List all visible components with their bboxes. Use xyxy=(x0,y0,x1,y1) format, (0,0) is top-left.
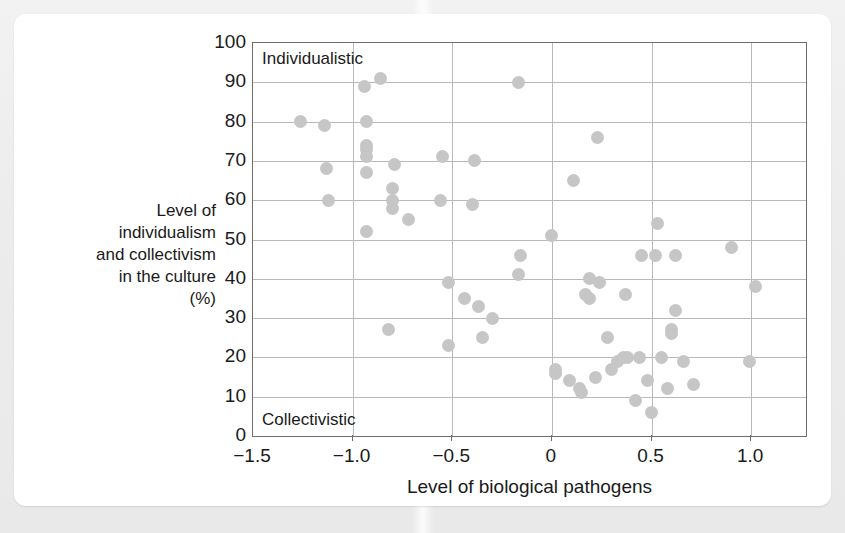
data-point xyxy=(591,131,604,144)
x-tick-label: 0 xyxy=(546,445,557,467)
y-tick-label: 0 xyxy=(200,424,246,446)
data-point xyxy=(743,355,756,368)
data-point xyxy=(687,378,700,391)
data-point xyxy=(374,72,387,85)
gridline-horizontal xyxy=(253,240,806,241)
data-point xyxy=(442,276,455,289)
data-point xyxy=(635,249,648,262)
y-tick-label: 80 xyxy=(200,110,246,132)
data-point xyxy=(567,174,580,187)
y-tick-label: 90 xyxy=(200,70,246,92)
gridline-vertical xyxy=(751,43,752,436)
data-point xyxy=(633,351,646,364)
data-point xyxy=(514,249,527,262)
data-point xyxy=(725,241,738,254)
y-tick-label: 20 xyxy=(200,345,246,367)
data-point xyxy=(512,76,525,89)
y-axis-label: Level of individualism and collectivism … xyxy=(96,200,216,310)
x-tick-mark xyxy=(651,435,652,441)
data-point xyxy=(619,288,632,301)
x-tick-label: 1.0 xyxy=(737,445,763,467)
y-tick-label: 10 xyxy=(200,385,246,407)
data-point xyxy=(486,312,499,325)
scatter-plot-figure: 0102030405060708090100 Level of individu… xyxy=(14,14,831,506)
data-point xyxy=(549,367,562,380)
data-point xyxy=(651,217,664,230)
data-point xyxy=(322,194,335,207)
x-axis-tick-labels: −1.5−1.0−0.500.51.0 xyxy=(252,441,807,471)
x-tick-mark xyxy=(750,435,751,441)
gridline-horizontal xyxy=(253,161,806,162)
data-point xyxy=(661,382,674,395)
scanned-page-background: 0102030405060708090100 Level of individu… xyxy=(0,0,845,533)
data-point xyxy=(655,351,668,364)
data-point xyxy=(358,80,371,93)
x-tick-label: −1.5 xyxy=(233,445,271,467)
data-point xyxy=(386,182,399,195)
data-point xyxy=(512,268,525,281)
gridline-horizontal xyxy=(253,122,806,123)
data-point xyxy=(583,292,596,305)
gridline-horizontal xyxy=(253,82,806,83)
x-tick-mark xyxy=(451,435,452,441)
data-point xyxy=(466,198,479,211)
data-point xyxy=(476,331,489,344)
data-point xyxy=(434,194,447,207)
data-point xyxy=(649,249,662,262)
plot-area: Individualistic Collectivistic xyxy=(252,42,807,437)
data-point xyxy=(472,300,485,313)
data-point xyxy=(458,292,471,305)
data-point xyxy=(318,119,331,132)
data-point xyxy=(749,280,762,293)
data-point xyxy=(382,323,395,336)
gridline-horizontal xyxy=(253,318,806,319)
gridline-horizontal xyxy=(253,279,806,280)
x-axis-label: Level of biological pathogens xyxy=(252,476,807,498)
data-point xyxy=(629,394,642,407)
data-point xyxy=(589,371,602,384)
x-tick-label: −0.5 xyxy=(433,445,471,467)
data-point xyxy=(665,327,678,340)
data-point xyxy=(294,115,307,128)
data-point xyxy=(442,339,455,352)
data-point xyxy=(320,162,333,175)
data-point xyxy=(601,331,614,344)
gridline-vertical xyxy=(452,43,453,436)
data-point xyxy=(468,154,481,167)
x-tick-mark xyxy=(352,435,353,441)
gridline-horizontal xyxy=(253,200,806,201)
data-point xyxy=(669,249,682,262)
data-point xyxy=(360,115,373,128)
data-point xyxy=(593,276,606,289)
gridline-vertical xyxy=(353,43,354,436)
data-point xyxy=(669,304,682,317)
y-tick-label: 70 xyxy=(200,149,246,171)
x-tick-label: −1.0 xyxy=(333,445,371,467)
figure-card: 0102030405060708090100 Level of individu… xyxy=(14,14,831,506)
data-point xyxy=(645,406,658,419)
x-tick-label: 0.5 xyxy=(637,445,663,467)
data-point xyxy=(360,166,373,179)
data-point xyxy=(402,213,415,226)
data-point xyxy=(386,202,399,215)
annotation-individualistic: Individualistic xyxy=(262,49,363,69)
gridline-horizontal xyxy=(253,397,806,398)
annotation-collectivistic: Collectivistic xyxy=(262,410,356,430)
data-point xyxy=(605,363,618,376)
data-point xyxy=(360,225,373,238)
gridline-horizontal xyxy=(253,357,806,358)
x-tick-mark xyxy=(551,435,552,441)
y-tick-label: 100 xyxy=(200,31,246,53)
data-point xyxy=(388,158,401,171)
data-point xyxy=(677,355,690,368)
